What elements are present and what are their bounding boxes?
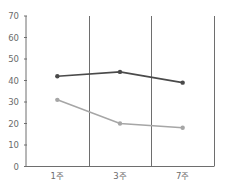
axes bbox=[26, 16, 214, 167]
series-series-light bbox=[55, 98, 185, 130]
x-category-label: 3주 bbox=[113, 171, 126, 181]
data-point-marker bbox=[118, 70, 122, 74]
series-series-dark bbox=[55, 70, 185, 85]
data-point-marker bbox=[55, 74, 59, 78]
data-point-marker bbox=[55, 98, 59, 102]
category-separators bbox=[90, 16, 215, 167]
y-tick-label: 20 bbox=[8, 119, 19, 129]
y-axis-ticks: 010203040506070 bbox=[8, 11, 27, 172]
data-point-marker bbox=[180, 126, 184, 130]
y-tick-label: 60 bbox=[8, 33, 19, 43]
x-axis-labels: 1주3주7주 bbox=[51, 171, 190, 181]
data-point-marker bbox=[180, 80, 184, 84]
y-tick-label: 30 bbox=[8, 97, 19, 107]
x-category-label: 1주 bbox=[51, 171, 64, 181]
line-chart: 010203040506070 1주3주7주 bbox=[0, 0, 230, 187]
y-tick-label: 40 bbox=[8, 76, 19, 86]
data-point-marker bbox=[118, 121, 122, 125]
x-category-label: 7주 bbox=[176, 171, 189, 181]
y-tick-label: 50 bbox=[8, 54, 19, 64]
y-tick-label: 10 bbox=[8, 140, 19, 150]
data-series bbox=[55, 70, 185, 130]
y-tick-label: 70 bbox=[8, 11, 19, 21]
y-tick-label: 0 bbox=[14, 162, 19, 172]
